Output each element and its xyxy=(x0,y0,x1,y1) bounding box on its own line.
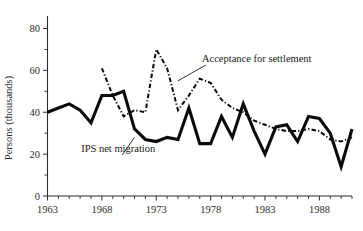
x-tick-group xyxy=(48,196,353,201)
annotation-group: Acceptance for settlementIPS net migrati… xyxy=(81,53,311,155)
acceptance-label: Acceptance for settlement xyxy=(202,53,312,64)
x-tick-label: 1983 xyxy=(255,204,276,215)
ips-label: IPS net migration xyxy=(81,143,156,154)
x-tick-label: 1988 xyxy=(309,204,330,215)
y-tick-label: 40 xyxy=(30,107,41,118)
x-tick-label: 1978 xyxy=(200,204,221,215)
x-tick-label: 1963 xyxy=(37,204,58,215)
chart-figure: 020406080 196319681973197819831988 Perso… xyxy=(0,0,363,231)
series-line-ips-net-migration xyxy=(48,91,353,166)
y-axis-title-group: Persons (thousands) xyxy=(3,75,15,160)
x-tick-label: 1973 xyxy=(146,204,167,215)
x-tick-label-group: 196319681973197819831988 xyxy=(37,204,330,215)
y-tick-label: 20 xyxy=(30,149,41,160)
axes-group xyxy=(48,16,353,196)
y-axis-title: Persons (thousands) xyxy=(3,75,15,160)
y-tick-label-group: 020406080 xyxy=(30,23,41,202)
y-tick-label: 60 xyxy=(30,65,41,76)
x-tick-label: 1968 xyxy=(91,204,112,215)
y-tick-label: 0 xyxy=(35,191,40,202)
y-tick-group xyxy=(43,28,48,196)
y-tick-label: 80 xyxy=(30,23,41,34)
chart-canvas: 020406080 196319681973197819831988 Perso… xyxy=(0,0,363,231)
